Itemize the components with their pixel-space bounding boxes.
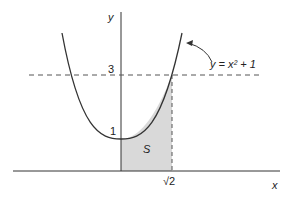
shaded-region-s bbox=[121, 75, 172, 171]
plot-graphics bbox=[0, 0, 286, 197]
tick-y-3: 3 bbox=[108, 64, 114, 75]
tick-y-1: 1 bbox=[110, 126, 116, 137]
figure: y x 3 1 √2 S y = x² + 1 bbox=[0, 0, 286, 197]
curve-equation-label: y = x² + 1 bbox=[210, 59, 256, 70]
y-axis-label: y bbox=[108, 12, 114, 23]
region-label-s: S bbox=[143, 144, 150, 155]
arrow-icon bbox=[188, 43, 212, 62]
tick-x-sqrt2: √2 bbox=[163, 176, 175, 187]
x-axis-label: x bbox=[272, 180, 278, 191]
